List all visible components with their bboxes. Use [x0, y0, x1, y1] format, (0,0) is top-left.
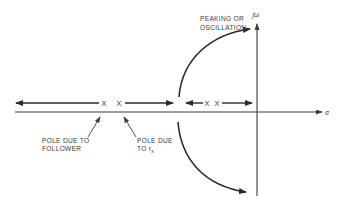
real-axis-label: σ — [325, 109, 330, 116]
imaginary-axis-label: jω — [252, 11, 260, 19]
follower-label-line1: POLE DUE TO — [42, 137, 89, 144]
rx-label-line1: POLE DUE — [137, 137, 173, 144]
peaking-annotation: PEAKING OR OSCILLATION — [200, 15, 246, 31]
locus-arc-upper — [179, 29, 250, 97]
pole-marker-rx: X — [117, 99, 122, 108]
locus-arc-lower — [178, 122, 246, 192]
follower-pole-annotation: POLE DUE TO FOLLOWER — [42, 117, 100, 152]
root-locus-diagram: σ jω X X X X PEAKING — [0, 0, 341, 207]
rx-pole-annotation: POLE DUE TO rx — [124, 117, 173, 154]
pole-marker-3: X — [205, 99, 210, 108]
pole-marker-4: X — [215, 99, 220, 108]
peaking-label-line2: OSCILLATION — [200, 24, 246, 31]
peaking-label-line1: PEAKING OR — [200, 15, 244, 22]
follower-label-line2: FOLLOWER — [42, 145, 81, 152]
rx-label-line2: TO rx — [137, 145, 154, 154]
pole-marker-follower: X — [102, 99, 107, 108]
